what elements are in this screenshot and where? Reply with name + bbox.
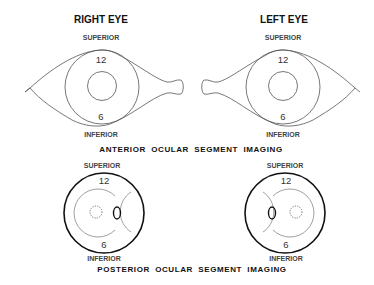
right-eye-superior-label: SUPERIOR <box>83 34 120 41</box>
posterior-right-eye: SUPERIOR 12 6 INFERIOR <box>64 162 144 262</box>
right-eye-pupil-circle <box>88 72 117 101</box>
posterior-left-optic-disc <box>269 207 276 219</box>
right-eye-clock-6: 6 <box>98 111 103 122</box>
posterior-right-arcade-arc <box>74 189 115 237</box>
posterior-right-superior-label: SUPERIOR <box>84 162 121 169</box>
posterior-left-eye: SUPERIOR 12 6 INFERIOR <box>245 162 325 262</box>
left-eye-clock-6: 6 <box>280 111 285 122</box>
posterior-right-optic-disc <box>114 207 121 219</box>
posterior-left-macula <box>290 206 302 218</box>
ocular-imaging-diagram: RIGHT EYE SUPERIOR 12 6 INFERIOR LEFT EY… <box>0 0 374 285</box>
right-eye-clock-12: 12 <box>96 54 107 65</box>
left-eye-superior-label: SUPERIOR <box>265 34 302 41</box>
right-eye-inferior-label: INFERIOR <box>84 131 117 138</box>
right-eye-title: RIGHT EYE <box>74 14 128 25</box>
left-eye-clock-12: 12 <box>278 54 289 65</box>
left-eye-inferior-label: INFERIOR <box>266 131 299 138</box>
posterior-right-clock-12: 12 <box>99 175 110 186</box>
anterior-left-eye: LEFT EYE SUPERIOR 12 6 INFERIOR <box>202 14 360 138</box>
left-eye-title: LEFT EYE <box>260 14 308 25</box>
posterior-left-clock-12: 12 <box>281 175 292 186</box>
posterior-right-clock-6: 6 <box>101 239 106 250</box>
anterior-right-eye: RIGHT EYE SUPERIOR 12 6 INFERIOR <box>25 14 183 138</box>
right-eye-canthus <box>25 88 30 92</box>
posterior-left-superior-label: SUPERIOR <box>267 162 304 169</box>
left-eye-pupil-circle <box>269 72 298 101</box>
posterior-left-inferior-label: INFERIOR <box>269 255 302 262</box>
anterior-section-title: ANTERIOR OCULAR SEGMENT IMAGING <box>99 145 282 154</box>
posterior-right-macula <box>90 206 102 218</box>
posterior-left-arcade-arc <box>273 189 314 237</box>
posterior-right-disc-arc <box>120 192 131 232</box>
posterior-left-clock-6: 6 <box>283 239 288 250</box>
posterior-right-inferior-label: INFERIOR <box>87 255 120 262</box>
posterior-section-title: POSTERIOR OCULAR SEGMENT IMAGING <box>97 265 286 274</box>
